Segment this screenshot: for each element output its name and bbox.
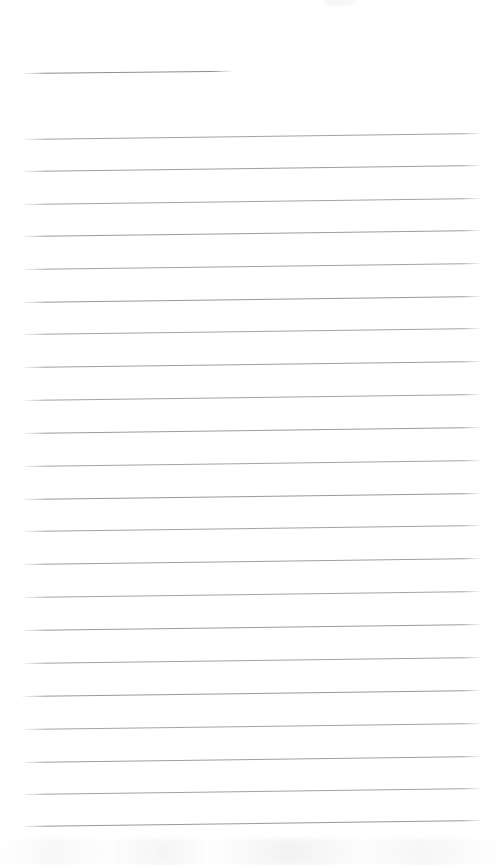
ruled-line	[20, 493, 482, 500]
paper-texture	[0, 0, 501, 865]
ruled-line	[20, 133, 482, 140]
header-underline	[20, 71, 233, 74]
ruled-line	[20, 558, 482, 565]
ruled-line	[20, 624, 482, 631]
ruled-line	[20, 263, 482, 270]
scan-artifact-bottom-smudge	[0, 839, 501, 865]
ruled-line	[20, 690, 482, 697]
ruled-line	[20, 427, 482, 434]
ruled-line	[20, 296, 482, 303]
scanned-page	[0, 0, 501, 865]
ruled-line	[20, 820, 482, 827]
ruled-line	[20, 230, 482, 237]
ruled-line	[20, 394, 482, 401]
ruled-line	[20, 525, 482, 532]
scan-artifact-fleck	[325, 0, 353, 4]
ruled-line	[20, 756, 482, 763]
ruled-line	[20, 657, 482, 664]
ruled-line	[20, 198, 482, 205]
ruled-line	[20, 591, 482, 598]
ruled-line	[20, 723, 482, 730]
ruled-line	[20, 165, 482, 172]
ruled-line	[20, 460, 482, 467]
ruled-line	[20, 361, 482, 368]
ruled-line	[20, 328, 482, 335]
ruled-line	[20, 788, 482, 795]
